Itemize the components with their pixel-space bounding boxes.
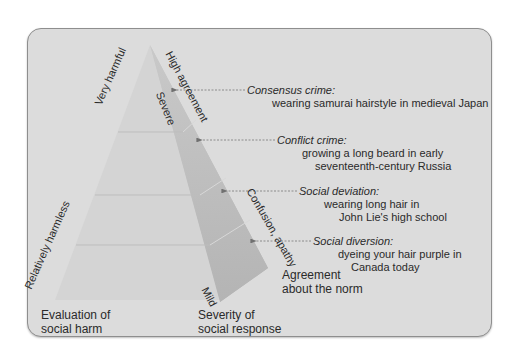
axis-title-line: Agreement	[282, 268, 363, 282]
axis-title-line: Evaluation of	[41, 308, 110, 322]
level-example: seventeenth-century Russia	[277, 160, 451, 173]
level-example: wearing long hair in	[299, 198, 447, 211]
axis-title-line: Severity of	[198, 308, 281, 322]
axis-title-line: social response	[198, 322, 281, 336]
level-example: dyeing your hair purple in	[313, 248, 462, 261]
axis-title-social-harm: Evaluation of social harm	[41, 308, 110, 336]
level-example: wearing samurai hairstyle in medieval Ja…	[247, 97, 488, 110]
level-example: growing a long beard in early	[277, 147, 451, 160]
level-consensus-crime: Consensus crime: wearing samurai hairsty…	[247, 84, 488, 110]
level-name: Social diversion:	[313, 235, 462, 248]
level-name: Conflict crime:	[277, 134, 451, 147]
level-conflict-crime: Conflict crime: growing a long beard in …	[277, 134, 451, 173]
level-name: Social deviation:	[299, 185, 447, 198]
axis-title-social-response: Severity of social response	[198, 308, 281, 336]
axis-title-line: social harm	[41, 322, 110, 336]
level-name: Consensus crime:	[247, 84, 488, 97]
level-social-deviation: Social deviation: wearing long hair in J…	[299, 185, 447, 224]
level-example: John Lie's high school	[299, 211, 447, 224]
axis-title-line: about the norm	[282, 282, 363, 296]
axis-title-agreement: Agreement about the norm	[282, 268, 363, 296]
